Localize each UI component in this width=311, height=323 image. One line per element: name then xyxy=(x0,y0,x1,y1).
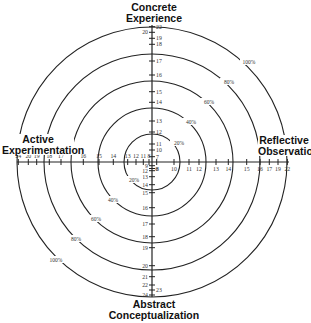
tick-label-left: 12 xyxy=(133,153,139,159)
tick-label-bottom: 16 xyxy=(142,205,148,211)
ring-label-sw: 60% xyxy=(91,216,102,222)
ring-label-ne: 60% xyxy=(204,99,215,105)
ring-label-ne: 80% xyxy=(224,79,235,85)
tick-label-bottom: 23 xyxy=(156,287,162,293)
title-reflective-observation: Reflective Observation xyxy=(258,135,310,156)
ring-label-ne: 100% xyxy=(243,59,256,65)
title-right-line2: Observation xyxy=(258,146,310,157)
tick-label-top: 15 xyxy=(156,89,162,95)
tick-label-top: 16 xyxy=(156,72,162,78)
tick-label-bottom: 13 xyxy=(142,174,148,180)
tick-label-right: 6 xyxy=(155,166,158,172)
ring-label-ne: 40% xyxy=(186,119,197,125)
tick-label-bottom: 14 xyxy=(142,182,148,188)
tick-label-bottom: 22 xyxy=(142,282,148,288)
tick-label-right: 15 xyxy=(244,166,250,172)
tick-label-top: 14 xyxy=(156,99,162,105)
ring-label-sw: 20% xyxy=(129,177,140,183)
ring-label-sw: 40% xyxy=(108,197,119,203)
tick-label-top: 22 xyxy=(156,24,162,30)
tick-label-right: 11 xyxy=(186,166,192,172)
title-active-experimentation: Active Experimentation xyxy=(2,134,74,155)
title-abstract-conceptualization: Abstract Conceptualization xyxy=(101,299,207,320)
tick-label-bottom: 19 xyxy=(142,245,148,251)
ring-label-sw: 80% xyxy=(71,236,82,242)
tick-label-bottom: 15 xyxy=(142,190,148,196)
tick-label-left: 8 xyxy=(148,153,151,159)
title-right-line1: Reflective xyxy=(258,135,310,146)
tick-label-right: 16 xyxy=(257,166,263,172)
tick-label-top: 12 xyxy=(156,129,162,135)
title-left-line2: Experimentation xyxy=(2,145,74,156)
tick-label-top: 18 xyxy=(156,41,162,47)
tick-label-left: 14 xyxy=(110,153,116,159)
tick-label-bottom: 17 xyxy=(142,221,148,227)
tick-label-right: 14 xyxy=(225,166,231,172)
tick-label-top: 7 xyxy=(156,154,159,160)
tick-label-right: 22 xyxy=(284,166,290,172)
tick-label-left: 15 xyxy=(96,153,102,159)
tick-label-top: 10 xyxy=(156,147,162,153)
tick-label-left: 11 xyxy=(141,153,147,159)
tick-label-right: 13 xyxy=(213,166,219,172)
tick-label-right: 12 xyxy=(196,166,202,172)
tick-label-top: 13 xyxy=(156,118,162,124)
learning-styles-diagram: 2220191817161514131211107981213141516171… xyxy=(0,0,311,323)
tick-label-left: 13 xyxy=(125,153,131,159)
ring-label-sw: 100% xyxy=(50,257,63,263)
tick-label-top: 20 xyxy=(142,29,148,35)
ring-label-ne: 20% xyxy=(174,140,185,146)
title-bottom-line2: Conceptualization xyxy=(101,310,207,321)
tick-label-top: 17 xyxy=(156,58,162,64)
title-left-line1: Active xyxy=(2,134,74,145)
tick-label-bottom: 20 xyxy=(142,263,148,269)
tick-label-right: 10 xyxy=(171,166,177,172)
title-top-line2: Experience xyxy=(119,13,189,24)
title-top-line1: Concrete xyxy=(119,2,189,13)
tick-label-right: 17 xyxy=(266,166,272,172)
title-bottom-line1: Abstract xyxy=(101,299,207,310)
title-concrete-experience: Concrete Experience xyxy=(119,2,189,23)
tick-label-right: 19 xyxy=(275,166,281,172)
tick-label-bottom: 21 xyxy=(142,274,148,280)
tick-label-bottom: 18 xyxy=(142,234,148,240)
